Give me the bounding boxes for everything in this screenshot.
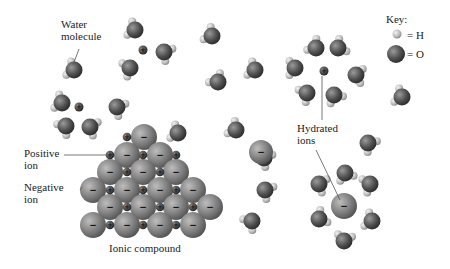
oxygen-atom xyxy=(210,74,227,91)
key-h-label: = H xyxy=(407,29,424,41)
label-positive-ion: Positive ion xyxy=(24,147,59,171)
plus-symbol: + xyxy=(124,203,130,211)
minus-symbol: − xyxy=(89,220,97,230)
plus-symbol: + xyxy=(107,186,113,194)
minus-symbol: − xyxy=(156,150,164,160)
minus-symbol: − xyxy=(89,185,97,195)
oxygen-atom xyxy=(360,135,377,152)
oxygen-atom xyxy=(330,40,347,57)
oxygen-atom xyxy=(247,62,264,79)
minus-symbol: − xyxy=(189,220,197,230)
minus-symbol: − xyxy=(172,167,180,177)
plus-symbol: + xyxy=(321,67,327,75)
oxygen-atom xyxy=(228,122,245,139)
minus-symbol: − xyxy=(340,201,348,211)
minus-symbol: − xyxy=(206,202,214,212)
plus-symbol: + xyxy=(76,103,82,111)
oxygen-atom xyxy=(122,60,139,77)
key-o-swatch xyxy=(387,45,405,63)
oxygen-atom xyxy=(127,22,144,39)
label-hydrated-ions: Hydrated ions xyxy=(297,122,338,146)
label-water-molecule: Water molecule xyxy=(61,18,101,42)
minus-symbol: − xyxy=(172,202,180,212)
label-ionic-compound: Ionic compound xyxy=(109,242,181,254)
minus-symbol: − xyxy=(123,150,131,160)
minus-symbol: − xyxy=(139,167,147,177)
minus-symbol: − xyxy=(106,167,114,177)
oxygen-atom xyxy=(109,99,126,116)
oxygen-atom xyxy=(311,176,328,193)
plus-symbol: + xyxy=(107,221,113,229)
oxygen-atom xyxy=(337,165,354,182)
oxygen-atom xyxy=(204,28,221,45)
oxygen-atom xyxy=(244,213,261,230)
plus-symbol: + xyxy=(140,151,146,159)
plus-symbol: + xyxy=(107,151,113,159)
plus-symbol: + xyxy=(157,168,163,176)
plus-symbol: + xyxy=(190,203,196,211)
oxygen-atom xyxy=(58,118,75,135)
oxygen-atom xyxy=(364,213,381,230)
oxygen-atom xyxy=(394,89,411,106)
minus-symbol: − xyxy=(257,147,265,157)
plus-symbol: + xyxy=(157,203,163,211)
plus-symbol: + xyxy=(124,133,130,141)
oxygen-atom xyxy=(66,62,83,79)
oxygen-atom xyxy=(82,119,99,136)
label-negative-ion: Negative ion xyxy=(24,181,64,205)
oxygen-atom xyxy=(362,176,379,193)
minus-symbol: − xyxy=(156,185,164,195)
key-h-swatch xyxy=(393,30,402,39)
plus-symbol: + xyxy=(173,151,179,159)
minus-symbol: − xyxy=(139,202,147,212)
oxygen-atom xyxy=(170,125,187,142)
key-o-label: = O xyxy=(407,48,424,60)
plus-symbol: + xyxy=(124,168,130,176)
plus-symbol: + xyxy=(140,46,146,54)
minus-symbol: − xyxy=(140,132,148,142)
oxygen-atom xyxy=(326,87,343,104)
key-title: Key: xyxy=(386,13,407,25)
oxygen-atom xyxy=(287,60,304,77)
oxygen-atom xyxy=(336,233,353,250)
minus-symbol: − xyxy=(123,220,131,230)
oxygen-atom xyxy=(299,85,316,102)
minus-symbol: − xyxy=(156,220,164,230)
plus-symbol: + xyxy=(173,221,179,229)
minus-symbol: − xyxy=(106,202,114,212)
molecules-layer: +++−−−−−−−−−−−−−−−−−−−−+++++++++++++++ xyxy=(50,17,410,249)
plus-symbol: + xyxy=(173,186,179,194)
oxygen-atom xyxy=(156,44,173,61)
oxygen-atom xyxy=(308,40,325,57)
minus-symbol: − xyxy=(189,185,197,195)
minus-symbol: − xyxy=(123,185,131,195)
oxygen-atom xyxy=(311,211,328,228)
plus-symbol: + xyxy=(140,221,146,229)
oxygen-atom xyxy=(257,182,274,199)
oxygen-atom xyxy=(348,67,365,84)
plus-symbol: + xyxy=(140,186,146,194)
oxygen-atom xyxy=(54,95,71,112)
